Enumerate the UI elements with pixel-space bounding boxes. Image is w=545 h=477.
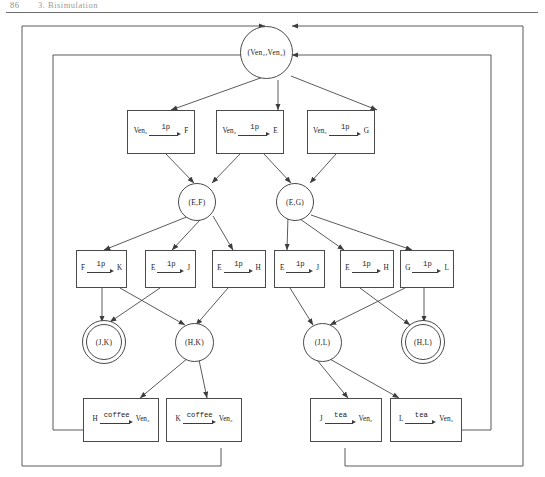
rule-arrow-r1: 1p [149, 125, 182, 139]
rule-source-r2: Ven₂ [222, 128, 236, 135]
rule-box-r12[interactable]: J tea Ven₂ [310, 398, 382, 442]
rule-target-r3: G [364, 128, 369, 135]
rule-source-r5: E [151, 265, 155, 272]
rule-expression-r4: F 1p K [81, 262, 122, 276]
rule-source-r7: E [280, 265, 284, 272]
rule-box-r11[interactable]: K coffee Ven₃ [166, 398, 242, 442]
rule-target-r11: Ven₃ [219, 416, 233, 423]
rule-action-r7: 1p [296, 261, 305, 268]
rule-action-r12: tea [334, 412, 347, 419]
rule-arrow-r11: coffee [183, 413, 217, 427]
diagram-page: 86 3. Bisimulation [0, 0, 545, 477]
rule-box-r1[interactable]: Ven₃ 1p F [127, 110, 195, 154]
rule-box-r9[interactable]: G 1p L [400, 250, 454, 288]
rule-box-r5[interactable]: E 1p J [145, 250, 196, 288]
rule-expression-r9: G 1p L [405, 262, 449, 276]
rule-box-r10[interactable]: H coffee Ven₂ [83, 398, 159, 442]
rule-action-r6: 1p [234, 261, 243, 268]
rule-expression-r2: Ven₂ 1p E [222, 125, 277, 139]
rule-source-r9: G [405, 265, 410, 272]
rule-box-r3[interactable]: Ven₃ 1p G [307, 110, 375, 154]
state-node-root[interactable]: (Ven₂,Ven₃) [240, 26, 293, 79]
rule-source-r12: J [320, 416, 323, 423]
rule-target-r10: Ven₂ [136, 416, 150, 423]
rule-action-r5: 1p [167, 261, 176, 268]
rule-box-r6[interactable]: E 1p H [212, 250, 266, 288]
state-node-hk[interactable]: (H,K) [175, 323, 214, 362]
rule-expression-r1: Ven₃ 1p F [134, 125, 189, 139]
rule-target-r4: K [117, 265, 122, 272]
rule-target-r9: L [444, 265, 448, 272]
rule-action-r11: coffee [187, 412, 213, 419]
state-label-root: (Ven₂,Ven₃) [247, 48, 285, 57]
rule-action-r1: 1p [162, 124, 171, 131]
rule-action-r9: 1p [423, 261, 432, 268]
rule-target-r5: J [187, 265, 190, 272]
rule-box-r7[interactable]: E 1p J [274, 250, 325, 288]
rule-box-r2[interactable]: Ven₂ 1p E [216, 110, 284, 154]
accepting-ring-jk: (J,K) [86, 324, 122, 360]
rule-action-r13: tea [415, 412, 428, 419]
rule-arrow-r13: tea [405, 413, 437, 427]
rule-target-r13: Ven₃ [439, 416, 453, 423]
rule-expression-r11: K coffee Ven₃ [176, 413, 233, 427]
state-label-hk: (H,K) [185, 338, 204, 347]
state-label-jl: (J,L) [315, 338, 331, 347]
rule-source-r3: Ven₃ [313, 128, 327, 135]
rule-expression-r8: E 1p H [345, 262, 389, 276]
accepting-ring-hl: (H,L) [405, 324, 441, 360]
rule-expression-r5: E 1p J [151, 262, 190, 276]
rule-target-r1: F [184, 128, 188, 135]
rule-expression-r13: L tea Ven₃ [399, 413, 453, 427]
rule-source-r11: K [176, 416, 181, 423]
rule-arrow-r12: tea [325, 413, 357, 427]
rule-action-r2: 1p [250, 124, 259, 131]
state-label-eg: (E,G) [286, 198, 304, 207]
state-label-jk: (J,K) [96, 338, 112, 347]
rule-action-r8: 1p [362, 261, 371, 268]
rule-action-r10: coffee [104, 412, 130, 419]
rule-arrow-r8: 1p [352, 262, 382, 276]
rule-arrow-r5: 1p [157, 262, 185, 276]
rule-source-r8: E [345, 265, 349, 272]
state-node-jl[interactable]: (J,L) [303, 323, 342, 362]
rule-arrow-r3: 1p [329, 125, 362, 139]
rule-expression-r12: J tea Ven₂ [320, 413, 373, 427]
rule-source-r1: Ven₃ [134, 128, 148, 135]
state-node-hl[interactable]: (H,L) [401, 320, 445, 364]
rule-target-r2: E [273, 128, 277, 135]
state-label-hl: (H,L) [414, 338, 432, 347]
state-label-ef: (E,F) [189, 198, 206, 207]
rule-expression-r7: E 1p J [280, 262, 319, 276]
rule-expression-r3: Ven₃ 1p G [313, 125, 369, 139]
rule-box-r4[interactable]: F 1p K [76, 250, 127, 288]
rule-arrow-r4: 1p [87, 262, 115, 276]
rule-action-r4: 1p [97, 261, 106, 268]
state-node-ef[interactable]: (E,F) [178, 183, 216, 221]
rule-target-r8: H [384, 265, 389, 272]
rule-source-r10: H [93, 416, 98, 423]
rule-target-r6: H [256, 265, 261, 272]
rule-source-r4: F [81, 265, 85, 272]
rule-box-r13[interactable]: L tea Ven₃ [390, 398, 462, 442]
rule-source-r6: E [217, 265, 221, 272]
rule-arrow-r7: 1p [286, 262, 314, 276]
state-node-jk[interactable]: (J,K) [82, 320, 126, 364]
rule-arrow-r2: 1p [238, 125, 271, 139]
rule-target-r12: Ven₂ [359, 416, 373, 423]
rule-source-r13: L [399, 416, 403, 423]
state-node-eg[interactable]: (E,G) [276, 183, 314, 221]
rule-expression-r6: E 1p H [217, 262, 261, 276]
rule-arrow-r9: 1p [412, 262, 442, 276]
rule-expression-r10: H coffee Ven₂ [93, 413, 150, 427]
rule-action-r3: 1p [341, 124, 350, 131]
rule-arrow-r10: coffee [100, 413, 134, 427]
rule-box-r8[interactable]: E 1p H [340, 250, 394, 288]
rule-arrow-r6: 1p [224, 262, 254, 276]
rule-target-r7: J [316, 265, 319, 272]
